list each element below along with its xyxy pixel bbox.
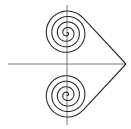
- lower-spiral: [46, 76, 85, 117]
- upper-spiral: [46, 11, 85, 52]
- heart-spiral-diagram: [0, 0, 131, 129]
